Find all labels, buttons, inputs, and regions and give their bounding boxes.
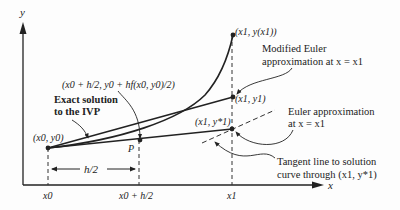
x-axis-label: x	[327, 179, 333, 191]
label-p: P	[127, 143, 134, 154]
label-euler-end: (x1, y*1)	[195, 116, 231, 128]
annotation-tangent-line1: Tangent line to solution	[277, 156, 377, 167]
annotation-tangent-line2: curve through (x1, y*1)	[277, 169, 377, 181]
annotation-midpoint-formula: (x0 + h/2, y0 + hf(x0, y0)/2)	[62, 79, 176, 91]
point-euler-end	[230, 127, 235, 132]
tick-x0-h2: x0 + h/2	[118, 190, 153, 201]
annotation-exact-line1: Exact solution	[54, 94, 118, 105]
label-exact-end: (x1, y(x1))	[235, 26, 277, 38]
label-start: (x0, y0)	[33, 132, 64, 144]
annotation-euler-line1: Euler approximation	[288, 106, 375, 117]
point-start	[46, 146, 51, 151]
annotation-modified-euler-line2: approximation at x = x1	[262, 56, 363, 67]
exact-leader	[72, 120, 88, 138]
label-modified-euler-end: (x1, y1)	[235, 93, 266, 105]
annotation-euler-line2: at x = x1	[288, 118, 325, 129]
annotation-modified-euler-line1: Modified Euler	[262, 43, 327, 54]
tick-x1: x1	[226, 190, 236, 201]
euler-leader	[236, 130, 293, 145]
h2-label: h/2	[84, 163, 99, 175]
modified-euler-leader	[237, 68, 292, 94]
diagram-canvas: y x h/2 (x0, y0) P (x1, y(x1)) (x1, y1) …	[0, 0, 400, 210]
y-axis-label: y	[19, 6, 25, 18]
h2-interval: h/2	[52, 163, 135, 175]
tick-x0: x0	[42, 190, 52, 201]
y-axis-arrow-icon	[20, 22, 27, 34]
x-axis-arrow-icon	[312, 182, 324, 189]
point-p	[138, 138, 143, 143]
annotation-exact-line2: to the IVP	[54, 106, 101, 117]
modified-euler-diagram: y x h/2 (x0, y0) P (x1, y(x1)) (x1, y1) …	[0, 0, 400, 210]
